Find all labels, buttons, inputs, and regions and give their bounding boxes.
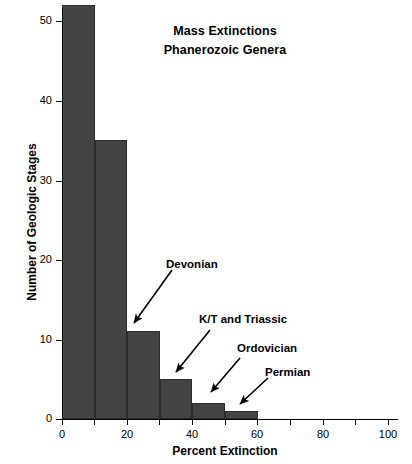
- bar-50-60: [225, 411, 258, 419]
- annotation-devonian: Devonian: [166, 258, 218, 270]
- y-tick-30: [56, 181, 62, 182]
- y-tick-label-40: 40: [26, 94, 52, 106]
- x-tick-label-20: 20: [107, 428, 147, 440]
- x-tick-20: [127, 419, 128, 425]
- x-tick-label-100: 100: [368, 428, 408, 440]
- x-tick-30: [159, 419, 160, 425]
- y-tick-40: [56, 101, 62, 102]
- bar-40-50: [192, 403, 225, 419]
- x-axis-line: [62, 419, 398, 420]
- x-tick-label-40: 40: [172, 428, 212, 440]
- x-tick-label-0: 0: [42, 428, 82, 440]
- chart-figure: Mass Extinctions Phanerozoic Genera 0 20…: [0, 0, 412, 464]
- y-tick-label-0: 0: [26, 412, 52, 424]
- bar-20-30: [127, 331, 160, 419]
- bar-0-10: [62, 5, 95, 419]
- x-tick-label-60: 60: [237, 428, 277, 440]
- x-tick-50: [225, 419, 226, 425]
- y-axis-line: [62, 8, 63, 419]
- y-tick-20: [56, 260, 62, 261]
- x-tick-label-80: 80: [303, 428, 343, 440]
- plot-area: [62, 21, 388, 419]
- y-tick-10: [56, 340, 62, 341]
- y-tick-0: [56, 419, 62, 420]
- bar-10-20: [95, 140, 128, 419]
- x-axis-title: Percent Extinction: [62, 444, 388, 458]
- annotation-permian: Permian: [265, 366, 310, 378]
- y-tick-label-10: 10: [26, 333, 52, 345]
- x-tick-0: [62, 419, 63, 425]
- annotation-ordovician: Ordovician: [237, 342, 297, 354]
- x-tick-40: [192, 419, 193, 425]
- bar-30-40: [160, 379, 193, 419]
- x-tick-100: [388, 419, 389, 425]
- x-tick-10: [94, 419, 95, 425]
- y-tick-50: [56, 21, 62, 22]
- x-tick-60: [257, 419, 258, 425]
- x-tick-80: [323, 419, 324, 425]
- y-tick-label-50: 50: [26, 14, 52, 26]
- x-tick-70: [290, 419, 291, 425]
- x-tick-90: [355, 419, 356, 425]
- y-axis-title: Number of Geologic Stages: [25, 122, 39, 322]
- annotation-kt-triassic: K/T and Triassic: [199, 313, 287, 325]
